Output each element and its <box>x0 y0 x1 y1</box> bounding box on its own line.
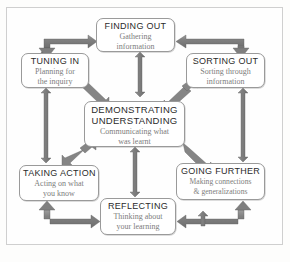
node-demonstrating-sub-line2: was learnt <box>88 137 181 146</box>
connector-finding-out-to-center <box>135 52 145 97</box>
node-finding-out-sub-line1: Gathering <box>100 32 171 41</box>
node-going-further-heading: GOING FURTHER <box>180 166 261 176</box>
node-demonstrating-heading-line1: DEMONSTRATING <box>88 104 181 115</box>
connector-going-further-to-reflecting <box>177 201 251 228</box>
node-tuning-in-sub-line2: the inquiry <box>25 77 85 86</box>
connector-taking-action-to-reflecting <box>39 201 100 228</box>
node-going-further-sub-line1: Making connections <box>180 177 261 186</box>
node-demonstrating-understanding[interactable]: DEMONSTRATING UNDERSTANDING Communicatin… <box>84 101 185 147</box>
node-taking-action-sub-line2: you know <box>23 189 95 198</box>
node-sorting-out-sub-line1: Sorting through <box>190 67 261 76</box>
connector-sorting-out-to-going-further <box>238 88 248 162</box>
node-tuning-in-heading: TUNING IN <box>25 56 85 66</box>
node-demonstrating-heading-line2: UNDERSTANDING <box>88 115 181 126</box>
diagram-canvas: FINDING OUT Gathering information TUNING… <box>0 0 290 262</box>
node-reflecting-heading: REFLECTING <box>104 201 172 211</box>
node-taking-action-sub-line1: Acting on what <box>23 179 95 188</box>
node-demonstrating-sub-line1: Communicating what <box>88 127 181 136</box>
node-reflecting-sub-line1: Thinking about <box>104 212 172 221</box>
node-taking-action-heading: TAKING ACTION <box>23 168 95 178</box>
node-taking-action[interactable]: TAKING ACTION Acting on what you know <box>19 165 99 201</box>
node-going-further[interactable]: GOING FURTHER Making connections & gener… <box>176 163 265 200</box>
node-sorting-out[interactable]: SORTING OUT Sorting through information <box>186 53 265 88</box>
node-tuning-in[interactable]: TUNING IN Planning for the inquiry <box>21 53 89 88</box>
connector-center-to-reflecting <box>130 147 140 197</box>
node-reflecting[interactable]: REFLECTING Thinking about your learning <box>100 198 176 235</box>
node-going-further-sub-line2: & generalizations <box>180 187 261 196</box>
node-reflecting-sub-line2: your learning <box>104 222 172 231</box>
node-finding-out-heading: FINDING OUT <box>100 21 171 31</box>
connector-tuning-in-to-taking-action <box>41 88 51 163</box>
node-sorting-out-sub-line2: information <box>190 77 261 86</box>
node-finding-out[interactable]: FINDING OUT Gathering information <box>96 18 175 52</box>
node-tuning-in-sub-line1: Planning for <box>25 67 85 76</box>
node-sorting-out-heading: SORTING OUT <box>190 56 261 66</box>
node-finding-out-sub-line2: information <box>100 42 171 51</box>
